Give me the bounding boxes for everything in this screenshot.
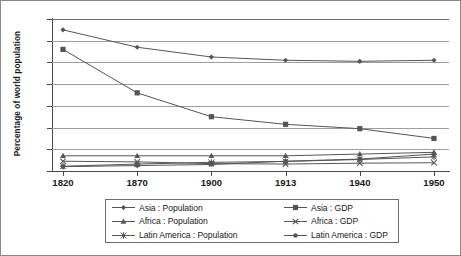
x-tick-label-1900: 1900 (188, 178, 234, 188)
chart-container: Percentage of world population 706050403… (0, 0, 461, 256)
legend-item-africa-gdp[interactable]: Africa : GDP (284, 217, 406, 226)
triangle-marker-icon (112, 217, 135, 226)
diamond-marker-icon (112, 203, 135, 212)
circle-marker-icon (284, 231, 307, 240)
legend-item-africa-population[interactable]: Africa : Population (112, 217, 284, 226)
legend-label: Africa : GDP (311, 217, 358, 226)
gridline-40 (52, 84, 449, 85)
x-tick-label-1940: 1940 (337, 178, 383, 188)
x-tick-mark-1950 (434, 172, 435, 176)
gridline-10 (52, 149, 449, 150)
x-tick-label-1950: 1950 (411, 178, 457, 188)
cross-marker-icon (284, 217, 307, 226)
y-axis-title: Percentage of world population (13, 6, 22, 182)
marker-star (120, 232, 126, 238)
legend-item-asia-population[interactable]: Asia : Population (112, 203, 284, 212)
marker-cross (293, 219, 298, 224)
star-marker-icon (112, 231, 135, 240)
plot-area (52, 19, 449, 171)
legend-label: Africa : Population (139, 217, 208, 226)
legend-label: Latin America : Population (139, 231, 238, 240)
x-tick-mark-1940 (360, 172, 361, 176)
x-tick-mark-1913 (286, 172, 287, 176)
legend-label: Asia : Population (139, 204, 203, 213)
x-tick-mark-1900 (211, 172, 212, 176)
marker-triangle (121, 218, 127, 223)
chart-legend: Asia : PopulationAsia : GDPAfrica : Popu… (105, 199, 399, 243)
legend-item-latin-america-gdp[interactable]: Latin America : GDP (284, 231, 406, 240)
gridline-70 (52, 19, 449, 20)
x-axis-line (52, 171, 450, 172)
x-tick-label-1870: 1870 (114, 178, 160, 188)
gridline-20 (52, 128, 449, 129)
legend-item-asia-gdp[interactable]: Asia : GDP (284, 203, 406, 212)
gridline-60 (52, 41, 449, 42)
x-tick-mark-1820 (63, 172, 64, 176)
gridline-30 (52, 106, 449, 107)
legend-label: Asia : GDP (311, 204, 353, 213)
x-tick-label-1913: 1913 (263, 178, 309, 188)
x-tick-mark-1870 (137, 172, 138, 176)
legend-item-latin-america-population[interactable]: Latin America : Population (112, 231, 284, 240)
gridline-50 (52, 62, 449, 63)
marker-square (293, 205, 298, 210)
legend-label: Latin America : GDP (311, 231, 388, 240)
y-tick-mark-0 (47, 171, 52, 172)
square-marker-icon (284, 203, 307, 212)
marker-circle (293, 233, 298, 238)
x-tick-label-1820: 1820 (40, 178, 86, 188)
marker-diamond (121, 205, 126, 210)
